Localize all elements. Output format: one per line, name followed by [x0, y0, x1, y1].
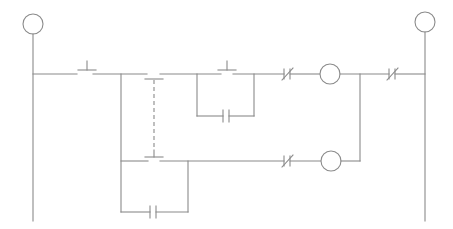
no-contact-d-icon — [218, 61, 236, 70]
no-contact-f-icon — [150, 206, 156, 218]
right-power-rail — [415, 12, 435, 221]
coil-2-icon — [321, 151, 341, 171]
no-contact-b-icon — [145, 79, 163, 150]
ladder-diagram — [0, 0, 453, 229]
coil-1-icon — [320, 64, 340, 84]
no-contact-a-icon — [78, 61, 96, 70]
rung-2 — [121, 150, 360, 218]
parallel-branch-1 — [197, 74, 254, 122]
left-power-rail — [23, 14, 43, 221]
no-contact-c-icon — [145, 150, 163, 157]
parallel-branch-2 — [121, 161, 188, 218]
no-contact-e-icon — [223, 110, 229, 122]
left-terminal-icon — [23, 14, 43, 34]
right-terminal-icon — [415, 12, 435, 32]
rung-1 — [33, 61, 425, 150]
